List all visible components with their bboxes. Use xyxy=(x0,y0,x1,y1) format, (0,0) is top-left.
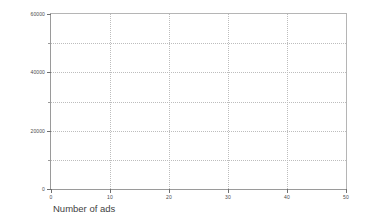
y-axis-tick-label: 20000 xyxy=(31,128,45,134)
plot-area: 020000400006000001020304050 xyxy=(50,13,347,190)
x-axis-tick xyxy=(287,189,288,193)
y-axis-tick-label: 40000 xyxy=(31,69,45,75)
y-axis-tick xyxy=(47,131,51,132)
gridline-vertical xyxy=(169,14,170,189)
gridline-horizontal xyxy=(51,160,346,161)
gridline-horizontal xyxy=(51,43,346,44)
y-axis-tick-label: 60000 xyxy=(31,11,45,17)
x-axis-tick xyxy=(51,189,52,193)
y-axis-minor-tick xyxy=(48,160,51,161)
y-axis-minor-tick xyxy=(48,43,51,44)
chart-figure: 020000400006000001020304050 Sales revenu… xyxy=(0,0,369,224)
x-axis-tick-label: 50 xyxy=(343,194,349,200)
x-axis-tick xyxy=(169,189,170,193)
x-axis-tick-label: 10 xyxy=(107,194,113,200)
x-axis-tick xyxy=(346,189,347,193)
y-axis-tick-label: 0 xyxy=(42,186,45,192)
x-axis-tick-label: 30 xyxy=(225,194,231,200)
x-axis-tick-label: 20 xyxy=(166,194,172,200)
x-axis-tick-label: 40 xyxy=(284,194,290,200)
y-axis-tick xyxy=(47,14,51,15)
gridline-vertical xyxy=(228,14,229,189)
gridline-vertical xyxy=(287,14,288,189)
x-axis-tick xyxy=(110,189,111,193)
x-axis-title: Number of ads xyxy=(53,203,115,214)
gridline-vertical xyxy=(110,14,111,189)
x-axis-tick xyxy=(228,189,229,193)
y-axis-tick xyxy=(47,72,51,73)
gridline-horizontal xyxy=(51,102,346,103)
x-axis-tick-label: 0 xyxy=(50,194,53,200)
gridline-horizontal xyxy=(51,131,346,132)
y-axis-minor-tick xyxy=(48,102,51,103)
gridline-horizontal xyxy=(51,72,346,73)
